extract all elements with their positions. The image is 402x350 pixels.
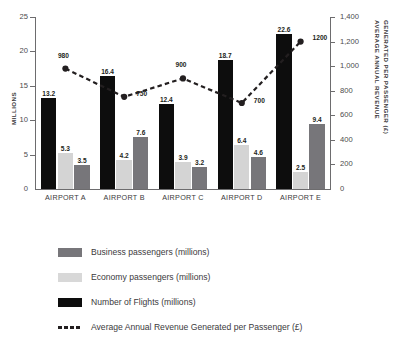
right-axis-title-line2: GENERATED PER PASSENGER (£): [383, 20, 390, 134]
right-tick-label: 200: [340, 159, 370, 168]
dual-axis-combo-chart: MILLIONS AVERAGE ANNUAL REVENUE GENERATE…: [0, 0, 402, 350]
legend-item[interactable]: Average Annual Revenue Generated per Pas…: [58, 318, 388, 343]
right-tick-label: 1,200: [340, 37, 370, 46]
right-axis-title-line1: AVERAGE ANNUAL REVENUE: [374, 20, 381, 119]
right-tick-label: 800: [340, 86, 370, 95]
x-axis-baseline: [35, 189, 331, 190]
revenue-data-point[interactable]: [298, 38, 304, 44]
chart-legend: Business passengers (millions)Economy pa…: [58, 243, 388, 343]
category-label: AIRPORT E: [271, 193, 330, 202]
left-tick-label: 5: [2, 150, 28, 159]
legend-color-swatch: [58, 298, 82, 307]
category-label: AIRPORT C: [154, 193, 213, 202]
legend-dashed-line-icon: [58, 326, 82, 329]
legend-label: Economy passengers (millions): [91, 268, 210, 287]
left-tick-label: 10: [2, 115, 28, 124]
revenue-data-point[interactable]: [62, 66, 68, 72]
left-tick-label: 25: [2, 12, 28, 21]
revenue-data-point[interactable]: [180, 75, 186, 81]
right-axis-ticks: 02004006008001,0001,2001,400: [340, 0, 372, 222]
revenue-line-series: 9807509007001200: [36, 17, 330, 189]
plot-area: MILLIONS AVERAGE ANNUAL REVENUE GENERATE…: [0, 0, 402, 222]
left-axis-ticks: 0510152025: [2, 0, 28, 222]
revenue-line-svg: [36, 17, 330, 189]
right-tick-label: 0: [340, 184, 370, 193]
revenue-point-label: 1200: [313, 34, 328, 41]
legend-item[interactable]: Number of Flights (millions): [58, 293, 388, 318]
legend-label: Number of Flights (millions): [91, 293, 196, 312]
right-axis-line: [330, 17, 331, 189]
left-tick-label: 20: [2, 46, 28, 55]
revenue-data-point[interactable]: [121, 94, 127, 100]
category-label: AIRPORT A: [36, 193, 95, 202]
legend-item[interactable]: Business passengers (millions): [58, 243, 388, 268]
revenue-point-label: 700: [254, 97, 265, 104]
right-tick-label: 600: [340, 110, 370, 119]
right-tick-label: 1,400: [340, 12, 370, 21]
left-tick-label: 15: [2, 81, 28, 90]
revenue-data-point[interactable]: [239, 100, 245, 106]
right-tick-label: 400: [340, 135, 370, 144]
legend-color-swatch: [58, 273, 82, 282]
category-label: AIRPORT B: [95, 193, 154, 202]
revenue-line-path: [65, 42, 300, 103]
revenue-point-label: 750: [136, 90, 147, 97]
right-tick-label: 1,000: [340, 61, 370, 70]
revenue-point-label: 900: [175, 61, 186, 68]
legend-label: Business passengers (millions): [91, 243, 209, 262]
left-tick-label: 0: [2, 184, 28, 193]
legend-label: Average Annual Revenue Generated per Pas…: [91, 318, 302, 337]
revenue-point-label: 980: [58, 52, 69, 59]
legend-color-swatch: [58, 248, 82, 257]
legend-item[interactable]: Economy passengers (millions): [58, 268, 388, 293]
category-label: AIRPORT D: [212, 193, 271, 202]
